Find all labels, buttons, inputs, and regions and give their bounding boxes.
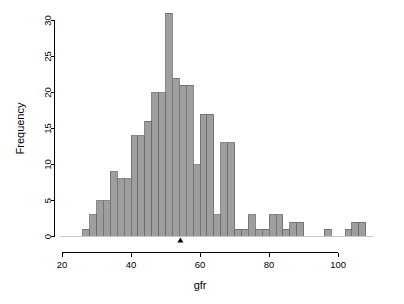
histogram-bar xyxy=(110,172,117,237)
chart-canvas: 051015202530Frequency20406080100gfr xyxy=(0,0,404,304)
histogram-bar xyxy=(131,136,138,237)
histogram-bar xyxy=(228,143,235,237)
x-axis-tick-label: 80 xyxy=(264,259,275,270)
histogram-bar xyxy=(352,222,359,236)
histogram-bar xyxy=(359,222,366,236)
x-axis: 20406080100gfr xyxy=(57,253,346,292)
histogram-bar xyxy=(172,78,179,236)
histogram-bar xyxy=(193,165,200,237)
histogram-bar xyxy=(214,215,221,237)
histogram-bar xyxy=(248,215,255,237)
histogram-bar xyxy=(117,179,124,237)
histogram-bar xyxy=(138,136,145,237)
histogram-bar xyxy=(324,229,331,236)
histogram-bar xyxy=(242,229,249,236)
y-axis-tick-label: 15 xyxy=(42,123,53,134)
x-axis-tick-label: 40 xyxy=(126,259,137,270)
histogram-bar xyxy=(235,229,242,236)
y-axis-tick-label: 25 xyxy=(42,51,53,62)
histogram-bar xyxy=(200,114,207,236)
x-axis-tick-label: 60 xyxy=(195,259,206,270)
histogram-bar xyxy=(166,13,173,236)
histogram-bar xyxy=(297,222,304,236)
histogram-bar xyxy=(152,93,159,237)
mean-marker-triangle-icon xyxy=(177,238,183,243)
histogram-bar xyxy=(255,229,262,236)
histogram-figure: 051015202530Frequency20406080100gfr xyxy=(0,0,404,304)
y-axis-tick-label: 20 xyxy=(42,87,53,98)
y-axis-tick-label: 10 xyxy=(42,159,53,170)
y-axis-tick-label: 5 xyxy=(42,198,53,203)
histogram-bar xyxy=(262,229,269,236)
y-axis-tick-label: 0 xyxy=(42,234,53,239)
histogram-bar xyxy=(276,215,283,237)
y-axis-tick-label: 30 xyxy=(42,15,53,26)
y-axis-title: Frequency xyxy=(14,102,26,154)
histogram-bar xyxy=(159,93,166,237)
x-axis-tick-label: 20 xyxy=(57,259,68,270)
histogram-bar xyxy=(221,143,228,237)
histogram-bar xyxy=(179,85,186,236)
histogram-bar xyxy=(345,229,352,236)
histogram-bar xyxy=(207,114,214,236)
histogram-bar xyxy=(290,222,297,236)
bars-group xyxy=(83,13,366,236)
histogram-bar xyxy=(124,179,131,237)
histogram-bar xyxy=(145,121,152,236)
histogram-bar xyxy=(103,201,110,237)
y-axis: 051015202530Frequency xyxy=(14,15,55,239)
x-axis-tick-label: 100 xyxy=(330,259,346,270)
histogram-bar xyxy=(269,215,276,237)
histogram-bar xyxy=(97,201,104,237)
histogram-bar xyxy=(283,229,290,236)
histogram-bar xyxy=(90,215,97,237)
histogram-bar xyxy=(186,85,193,236)
x-axis-title: gfr xyxy=(194,279,207,291)
histogram-bar xyxy=(83,229,90,236)
